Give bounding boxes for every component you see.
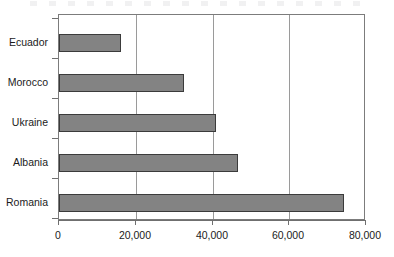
bar-morocco[interactable]: [59, 74, 184, 92]
scan-artifact: [30, 1, 370, 6]
y-axis-label-morocco: Morocco: [8, 77, 48, 88]
bars-layer: [59, 15, 364, 219]
y-axis-tick: [52, 18, 58, 19]
y-axis-label-romania: Romania: [6, 197, 48, 208]
x-axis-tick: [365, 220, 366, 225]
y-axis-tick: [52, 178, 58, 179]
x-axis-label-40000: 40,000: [196, 229, 228, 241]
x-axis-tick: [288, 220, 289, 225]
y-axis-label-ecuador: Ecuador: [9, 37, 48, 48]
x-axis-label-60000: 60,000: [272, 229, 304, 241]
bar-chart: Ecuador Morocco Ukraine Albania Romania …: [0, 0, 394, 257]
x-axis-tick: [58, 220, 59, 225]
y-axis-tick: [52, 218, 58, 219]
bar-ukraine[interactable]: [59, 114, 216, 132]
y-axis-label-albania: Albania: [13, 157, 48, 168]
y-axis-tick: [52, 138, 58, 139]
bar-ecuador[interactable]: [59, 34, 121, 52]
bar-romania[interactable]: [59, 194, 344, 212]
x-axis-label-0: 0: [55, 229, 61, 241]
y-axis-label-ukraine: Ukraine: [12, 117, 48, 128]
bar-albania[interactable]: [59, 154, 238, 172]
x-axis-label-20000: 20,000: [119, 229, 151, 241]
x-axis-tick: [212, 220, 213, 225]
plot-area: [58, 14, 365, 220]
x-axis-label-80000: 80,000: [349, 229, 381, 241]
y-axis-tick: [52, 98, 58, 99]
y-axis-tick: [52, 58, 58, 59]
x-axis-tick: [135, 220, 136, 225]
